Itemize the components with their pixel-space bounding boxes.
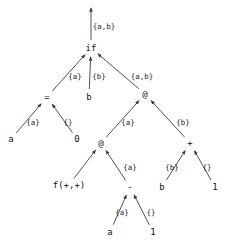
graph-canvas: if=b@a0@+f(+,+)-b1a1 {a,b}{a}{b}{a,b}{a}… xyxy=(0,0,235,248)
node-b-plus-left: b xyxy=(159,183,164,192)
edge-a-to-minus-label: {a} xyxy=(115,209,129,217)
edge-b-to-if-label: {b} xyxy=(92,73,106,81)
node-one-bottom: 1 xyxy=(150,228,155,237)
node-plus: + xyxy=(187,139,192,148)
edge-b-to-if xyxy=(89,57,90,89)
edge-zero-to-equals-label: {} xyxy=(63,119,72,127)
edge-plus-to-at-top-label: {b} xyxy=(176,119,190,127)
node-at-top: @ xyxy=(142,90,147,99)
edge-minus-to-at-lower-label: {a} xyxy=(123,164,137,172)
edge-line-group xyxy=(16,8,211,225)
edge-f-to-at-lower xyxy=(74,150,96,178)
node-at-lower: @ xyxy=(98,139,103,148)
node-a-bottom: a xyxy=(107,228,112,237)
node-minus: - xyxy=(127,183,132,192)
node-equals: = xyxy=(44,93,49,102)
node-a-left: a xyxy=(8,135,13,144)
edge-at-to-if-label: {a,b} xyxy=(131,73,154,81)
node-f-plus-plus: f(+,+) xyxy=(53,181,86,190)
node-b-condition: b xyxy=(86,93,91,102)
edge-one-to-minus-label: {} xyxy=(146,209,155,217)
edge-one-to-plus-label: {} xyxy=(202,164,211,172)
node-zero: 0 xyxy=(74,135,79,144)
edge-if-to-output-label: {a,b} xyxy=(93,23,116,31)
edge-equals-to-if-label: {a} xyxy=(68,73,82,81)
edge-a-to-equals-label: {a} xyxy=(26,119,40,127)
node-one-right: 1 xyxy=(212,183,217,192)
edge-at-lower-to-at-top-label: {a} xyxy=(121,119,135,127)
node-if: if xyxy=(86,44,97,53)
edge-b-to-plus-label: {b} xyxy=(165,164,179,172)
